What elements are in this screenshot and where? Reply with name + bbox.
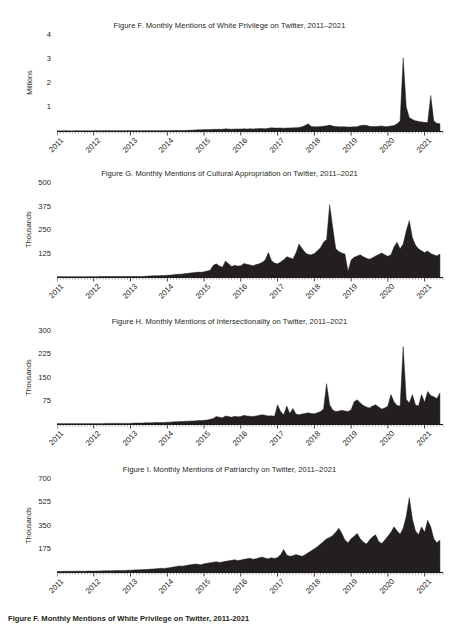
- plot-area: [57, 479, 457, 584]
- area-series: [57, 498, 440, 572]
- y-tick-label: 1: [9, 102, 51, 111]
- y-tick-label: 525: [9, 497, 51, 506]
- figure-title: Figure I. Monthly Mentions of Patriarchy…: [0, 465, 459, 474]
- area-series: [57, 205, 440, 277]
- x-axis-ticks: [57, 425, 443, 429]
- figure-title: Figure H. Monthly Mentions of Intersecti…: [0, 317, 459, 326]
- figure-title: Figure F. Monthly Mentions of White Priv…: [0, 21, 459, 30]
- y-tick-label: 250: [9, 225, 51, 234]
- figure-title: Figure G. Monthly Mentions of Cultural A…: [0, 169, 459, 178]
- x-axis-ticks: [57, 278, 443, 282]
- x-axis-ticks: [57, 573, 443, 577]
- area-series: [57, 347, 440, 425]
- plot-area: [57, 331, 457, 436]
- y-tick-label: 375: [9, 202, 51, 211]
- bottom-caption: Figure F. Monthly Mentions of White Priv…: [8, 614, 249, 623]
- y-tick-label: 225: [9, 349, 51, 358]
- y-tick-label: 175: [9, 544, 51, 553]
- figures-page: Figure F. Monthly Mentions of White Priv…: [0, 0, 459, 628]
- y-tick-label: 4: [9, 30, 51, 39]
- plot-area: [57, 35, 457, 143]
- y-tick-label: 700: [9, 474, 51, 483]
- y-tick-label: 75: [9, 396, 51, 405]
- plot-area: [57, 183, 457, 289]
- y-tick-label: 3: [9, 54, 51, 63]
- area-series: [57, 58, 440, 131]
- y-tick-label: 350: [9, 521, 51, 530]
- y-tick-label: 2: [9, 78, 51, 87]
- y-tick-label: 150: [9, 373, 51, 382]
- y-tick-label: 125: [9, 249, 51, 258]
- y-tick-label: 300: [9, 326, 51, 335]
- x-axis-ticks: [57, 132, 443, 136]
- y-tick-label: 500: [9, 178, 51, 187]
